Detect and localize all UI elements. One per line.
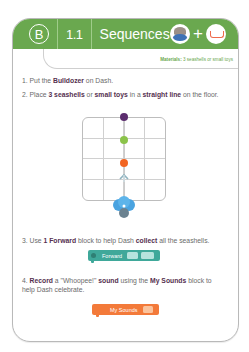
block-notch — [91, 260, 94, 263]
seashell-dot-purple — [120, 113, 128, 121]
materials-value: 3 seashells or small toys — [183, 57, 233, 62]
card-header: B 1.1 Sequences + — [13, 19, 238, 49]
sound-slot[interactable] — [143, 306, 153, 313]
lesson-title: Sequences — [100, 26, 170, 42]
header-divider — [57, 19, 58, 49]
forward-slot-2[interactable] — [141, 252, 154, 259]
block-notch — [96, 314, 99, 317]
header-icons: + — [170, 24, 226, 44]
path-line — [124, 116, 125, 200]
my-sounds-block[interactable]: My Sounds — [92, 304, 159, 315]
step-1: 1. Put the Bulldozer on Dash. — [22, 76, 222, 85]
forward-label: Forward — [102, 253, 122, 259]
level-badge: B — [29, 24, 49, 44]
forward-slot-1[interactable] — [127, 252, 138, 259]
arrow-up-icon — [119, 172, 129, 182]
dash-robot-icon — [113, 195, 135, 221]
forward-block[interactable]: Forward — [88, 250, 160, 261]
materials-label: Materials: — [160, 57, 181, 62]
header-divider — [91, 19, 92, 49]
plus-icon: + — [193, 25, 203, 43]
materials-tab: Materials: 3 seashells or small toys — [43, 49, 239, 69]
my-sounds-label: My Sounds — [110, 307, 138, 313]
dash-robot-icon — [170, 24, 190, 44]
seashell-dot-green — [120, 136, 128, 144]
lesson-number: 1.1 — [66, 27, 83, 42]
seashell-dot-orange — [120, 159, 128, 167]
step-3: 3. Use 1 Forward block to help Dash coll… — [22, 236, 222, 245]
block-dot — [91, 253, 96, 258]
step-2: 2. Place 3 seashells or small toys in a … — [22, 90, 222, 99]
bulldozer-accessory-icon — [206, 24, 226, 44]
step-4: 4. Record a "Whoopee!" sound using the M… — [22, 276, 222, 294]
